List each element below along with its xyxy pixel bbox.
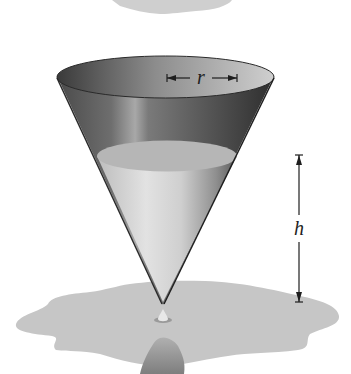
upper-puddle — [112, 0, 232, 14]
water-surface — [97, 141, 237, 172]
height-label: h — [294, 217, 304, 239]
radius-label: r — [197, 66, 205, 88]
diagram-canvas: r h — [0, 0, 351, 374]
water-volume — [97, 156, 237, 302]
cone-draining-diagram: r h — [0, 0, 351, 374]
